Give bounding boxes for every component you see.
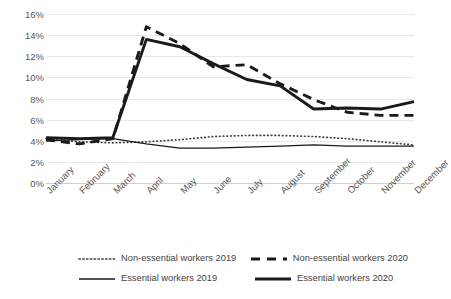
legend-swatch-solid-thick: [254, 273, 292, 284]
y-axis-tick-label: 16%: [4, 9, 44, 20]
series-line: [46, 139, 414, 149]
plot-area: [46, 14, 414, 183]
y-axis-tick-label: 14%: [4, 30, 44, 41]
legend-row-2: Essential workers 2019 Essential workers…: [78, 268, 408, 288]
x-axis-tick-label: December: [412, 157, 451, 196]
legend-label: Non-essential workers 2019: [121, 253, 236, 263]
legend-label: Essential workers 2019: [121, 273, 217, 283]
legend-swatch-dashed: [250, 253, 288, 264]
y-axis-tick-label: 2%: [4, 156, 44, 167]
legend-label: Essential workers 2020: [297, 273, 393, 283]
y-axis-tick-label: 6%: [4, 114, 44, 125]
chart-legend: Non-essential workers 2019 Non-essential…: [78, 248, 408, 288]
legend-item-non-essential-2019: Non-essential workers 2019: [78, 253, 250, 264]
y-axis-tick-label: 8%: [4, 93, 44, 104]
legend-item-essential-2020: Essential workers 2020: [254, 273, 393, 284]
y-axis-tick-label: 4%: [4, 135, 44, 146]
legend-item-non-essential-2020: Non-essential workers 2020: [250, 253, 408, 264]
y-axis-tick-label: 10%: [4, 72, 44, 83]
y-axis-tick-label: 12%: [4, 51, 44, 62]
series-line: [46, 39, 414, 138]
legend-swatch-solid-thin: [78, 273, 116, 284]
y-axis-tick-label: 0%: [4, 178, 44, 189]
series-lines: [46, 14, 414, 183]
legend-item-essential-2019: Essential workers 2019: [78, 273, 254, 284]
legend-row-1: Non-essential workers 2019 Non-essential…: [78, 248, 408, 268]
legend-swatch-dotted: [78, 253, 116, 264]
series-line: [46, 27, 414, 144]
legend-label: Non-essential workers 2020: [293, 253, 408, 263]
